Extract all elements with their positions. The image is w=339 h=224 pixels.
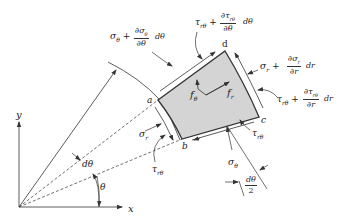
sigma-r-label: σr: [139, 130, 148, 141]
f-theta-label: fθ: [190, 90, 197, 102]
theta-arc: [93, 174, 99, 207]
tau-rtheta-theta-suffix: dθ: [243, 18, 253, 26]
tau-rtheta-r-suffix: dr: [324, 95, 333, 103]
tau-rtheta-left-label: τrθ: [152, 165, 163, 176]
sigma-theta-plus-label: σθ +: [110, 32, 130, 43]
tau-rtheta-theta-label: τrθ +: [195, 18, 217, 29]
diagram-graphics: [0, 0, 339, 224]
sigma-theta-plus-fraction: ∂σθ ∂θ: [134, 27, 149, 48]
corner-c-label: c: [261, 116, 266, 125]
tau-rtheta-bottom-label: τrθ: [252, 129, 263, 140]
tau-rtheta-r-fraction: ∂τrθ ∂r: [303, 88, 319, 109]
tau-rtheta-r-label: τrθ +: [277, 95, 299, 106]
corner-a-label: a: [147, 96, 152, 105]
sigma-r-plus-label: σr +: [260, 62, 279, 73]
stress-element: [158, 51, 259, 139]
sigma-theta-plus-suffix: dθ: [155, 33, 165, 41]
theta-label: θ: [100, 183, 105, 192]
corner-d-label: d: [222, 40, 228, 49]
sigma-theta-label: σθ: [228, 158, 238, 169]
dtheta-label: dθ: [82, 160, 93, 169]
radial-lines: [19, 70, 310, 207]
x-axis-label: x: [128, 204, 134, 214]
tau-rtheta-theta-fraction: ∂τrθ ∂θ: [220, 12, 236, 33]
sigma-r-plus-fraction: ∂σr ∂r: [287, 55, 301, 76]
f-r-label: fr: [227, 88, 234, 100]
sigma-r-plus-suffix: dr: [306, 62, 315, 70]
y-axis-label: y: [16, 110, 22, 120]
polar-stress-diagram: x y θ dθ a b c d fθ fr σθ + ∂σθ ∂θ dθ τr…: [0, 0, 339, 224]
half-dtheta-fraction: dθ 2: [245, 176, 257, 195]
corner-b-label: b: [182, 142, 188, 151]
